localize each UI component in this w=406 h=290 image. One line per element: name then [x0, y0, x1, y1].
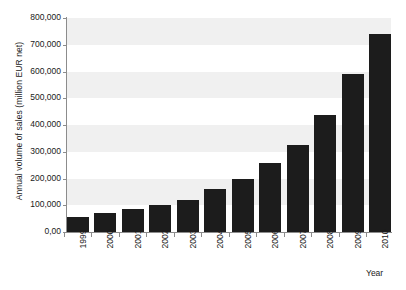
x-axis-tick: 2001	[122, 233, 144, 283]
x-axis-tick: 2009	[342, 233, 364, 283]
x-axis-tick-label: 1999	[78, 230, 88, 249]
x-axis-tick-mark	[366, 233, 367, 237]
bar-slot	[314, 18, 336, 232]
y-axis-tick-label: 100,000	[30, 199, 61, 209]
bar[interactable]	[149, 205, 171, 232]
x-axis-tick-label: 2002	[160, 230, 170, 249]
bar-slot	[342, 18, 364, 232]
x-axis-tick-mark	[119, 233, 120, 237]
bar[interactable]	[369, 34, 391, 232]
y-axis-tick-label: 500,000	[30, 92, 61, 102]
bar[interactable]	[177, 200, 199, 232]
x-axis-tick: 2003	[177, 233, 199, 283]
x-axis-tick: 1999	[67, 233, 89, 283]
x-axis-tick: 2008	[314, 233, 336, 283]
x-axis-title: Year	[366, 268, 383, 278]
x-axis-ticks: 1999200020012002200320042005200620072008…	[67, 233, 391, 283]
x-axis-tick-label: 2001	[133, 230, 143, 249]
x-axis-tick-label: 2005	[243, 230, 253, 249]
bar-slot	[369, 18, 391, 232]
y-axis-tick-label: 700,000	[30, 39, 61, 49]
bar-chart: Annual volume of sales (million EUR net)…	[0, 0, 406, 290]
x-axis-tick: 2007	[287, 233, 309, 283]
x-axis-tick-label: 2004	[215, 230, 225, 249]
y-axis-tick-label: 600,000	[30, 66, 61, 76]
bar-slot	[232, 18, 254, 232]
x-axis-tick-mark	[201, 233, 202, 237]
x-axis-tick: 2004	[204, 233, 226, 283]
x-axis-tick: 2006	[259, 233, 281, 283]
bar[interactable]	[204, 189, 226, 232]
x-axis-tick: 2005	[232, 233, 254, 283]
bar-slot	[204, 18, 226, 232]
x-axis-tick-label: 2006	[270, 230, 280, 249]
x-axis-tick-mark	[339, 233, 340, 237]
x-axis-tick-label: 2008	[325, 230, 335, 249]
y-axis-tick-label: 800,000	[30, 12, 61, 22]
bar[interactable]	[232, 179, 254, 233]
y-axis-tick-label: 0,00	[44, 226, 61, 236]
x-axis-tick-mark	[256, 233, 257, 237]
bar-slot	[122, 18, 144, 232]
bar[interactable]	[342, 74, 364, 232]
x-axis-tick-mark	[146, 233, 147, 237]
bar-slot	[177, 18, 199, 232]
bar-slot	[149, 18, 171, 232]
y-axis-tick-label: 400,000	[30, 119, 61, 129]
y-axis-title: Annual volume of sales (million EUR net)	[14, 6, 24, 236]
y-axis-tick-label: 200,000	[30, 173, 61, 183]
x-axis-tick-mark	[229, 233, 230, 237]
x-axis-tick: 2000	[94, 233, 116, 283]
x-axis-tick-label: 2010	[380, 230, 390, 249]
bar-slot	[287, 18, 309, 232]
x-axis-tick-mark	[91, 233, 92, 237]
x-axis-tick-mark	[64, 233, 65, 237]
x-axis-tick-mark	[174, 233, 175, 237]
bar-slot	[259, 18, 281, 232]
y-axis-tick-label: 300,000	[30, 146, 61, 156]
x-axis-tick-label: 2007	[298, 230, 308, 249]
x-axis-tick-mark	[311, 233, 312, 237]
bar[interactable]	[314, 115, 336, 232]
bar-slot	[94, 18, 116, 232]
bar-slot	[67, 18, 89, 232]
bar[interactable]	[259, 163, 281, 232]
x-axis-tick-label: 2000	[105, 230, 115, 249]
x-axis-tick-label: 2009	[353, 230, 363, 249]
x-axis-tick-mark	[284, 233, 285, 237]
bar[interactable]	[287, 145, 309, 232]
bar-series	[67, 18, 391, 232]
x-axis-tick-label: 2003	[188, 230, 198, 249]
x-axis-tick: 2002	[149, 233, 171, 283]
